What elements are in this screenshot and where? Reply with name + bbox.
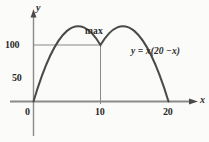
max-annotation-label: max xyxy=(85,27,103,37)
x-tick-label-10: 10 xyxy=(95,107,105,117)
y-axis-label: y xyxy=(36,3,40,13)
x-axis-label: x xyxy=(200,95,205,105)
x-axis-arrowhead xyxy=(189,98,198,104)
equation-annotation-label: y = x(20 −x) xyxy=(131,47,180,57)
x-tick-label-20: 20 xyxy=(163,107,173,117)
y-tick-label-50: 50 xyxy=(12,73,22,83)
plot-canvas xyxy=(0,0,209,142)
x-tick-label-0: 0 xyxy=(25,107,30,117)
parabola-figure: 100 50 0 10 20 y x max y = x(20 −x) xyxy=(0,0,209,142)
y-tick-label-100: 100 xyxy=(5,40,19,50)
